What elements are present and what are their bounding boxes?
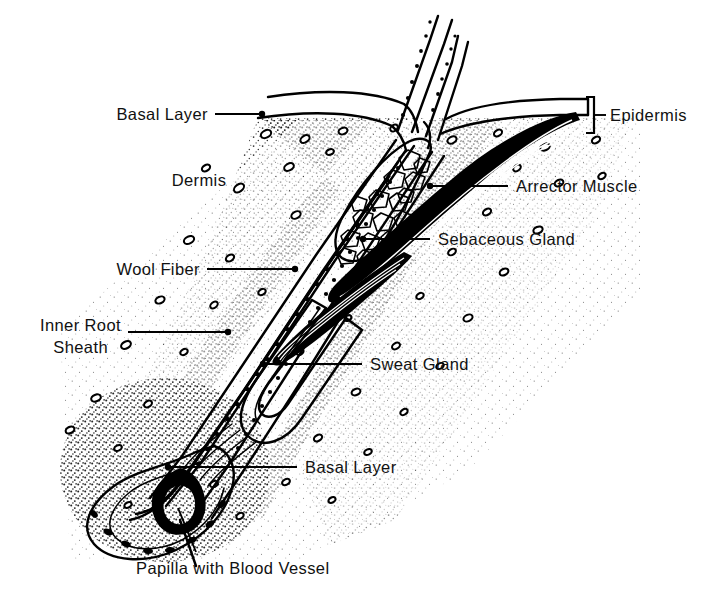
diagram-canvas: Basal Layer Dermis Wool Fiber Inner Root…	[0, 0, 718, 593]
leader-dot-sweat-gland	[260, 361, 266, 367]
leader-dot-inner-root-sheath	[225, 329, 231, 335]
label-dermis: Dermis	[172, 171, 227, 189]
leader-dot-wool-fiber	[292, 266, 298, 272]
leader-dot-arrector-muscle	[427, 183, 433, 189]
leader-dot-basal-layer-bottom	[165, 464, 171, 470]
label-sebaceous-gland: Sebaceous Gland	[438, 230, 575, 248]
label-inner-root-sheath-line1: Inner Root	[40, 316, 121, 334]
leader-dot-basal-layer-top	[259, 111, 265, 117]
label-basal-layer-bottom: Basal Layer	[305, 458, 397, 476]
label-sweat-gland: Sweat Gland	[370, 355, 469, 373]
label-inner-root-sheath-line2: Sheath	[53, 338, 108, 356]
label-basal-layer-top: Basal Layer	[116, 105, 208, 123]
label-wool-fiber: Wool Fiber	[117, 260, 201, 278]
label-arrector-muscle: Arrector Muscle	[516, 177, 638, 195]
leader-dot-sebaceous-gland	[360, 236, 366, 242]
label-papilla-with-blood-vessel: Papilla with Blood Vessel	[136, 559, 329, 577]
label-epidermis: Epidermis	[610, 106, 687, 124]
wool-follicle-diagram: Basal Layer Dermis Wool Fiber Inner Root…	[0, 0, 718, 593]
